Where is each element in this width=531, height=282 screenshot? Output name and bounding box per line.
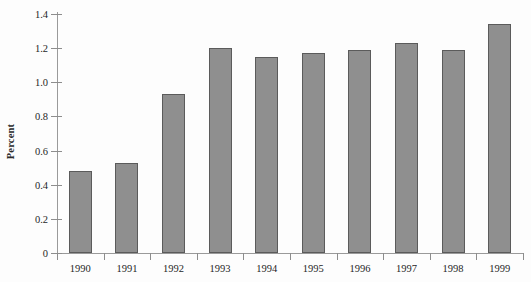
x-axis-tick — [383, 253, 384, 260]
x-axis-tick — [476, 253, 477, 260]
bar — [302, 53, 325, 253]
y-axis-tick-label: 1.4 — [2, 9, 48, 20]
y-axis-tick — [51, 14, 62, 15]
x-axis-tick — [104, 253, 105, 260]
x-axis-tick — [337, 253, 338, 260]
y-axis-tick — [51, 82, 62, 83]
x-axis-tick-label: 1994 — [256, 263, 277, 274]
x-axis-tick-label: 1996 — [349, 263, 370, 274]
y-axis-tick-label: 1.0 — [2, 77, 48, 88]
x-axis-tick-label: 1990 — [70, 263, 91, 274]
x-axis-tick-label: 1992 — [163, 263, 184, 274]
y-axis-tick — [51, 219, 62, 220]
y-axis-tick — [51, 185, 62, 186]
y-axis-title: Percent — [0, 96, 22, 186]
x-axis-tick-label: 1993 — [210, 263, 231, 274]
y-axis-tick-label: 0.8 — [2, 111, 48, 122]
x-axis-tick — [197, 253, 198, 260]
x-axis-tick — [150, 253, 151, 260]
bar — [395, 43, 418, 253]
y-axis-tick-label: 0.4 — [2, 179, 48, 190]
x-axis-tick — [290, 253, 291, 260]
y-axis-tick-label: 0.6 — [2, 145, 48, 156]
x-axis-tick — [57, 253, 58, 260]
x-axis-tick — [430, 253, 431, 260]
bar — [69, 171, 92, 253]
y-axis-tick-label: 0 — [2, 248, 48, 259]
x-axis-tick — [243, 253, 244, 260]
bar — [488, 24, 511, 253]
bar — [348, 50, 371, 253]
bar — [162, 94, 185, 253]
x-axis-tick-label: 1998 — [443, 263, 464, 274]
x-axis-tick-label: 1997 — [396, 263, 417, 274]
y-axis-tick-label: 0.2 — [2, 213, 48, 224]
y-axis-tick — [51, 116, 62, 117]
x-axis-tick-label: 1995 — [303, 263, 324, 274]
y-axis-tick-label: 1.2 — [2, 43, 48, 54]
bar-chart: Percent 00.20.40.60.81.01.21.4 199019911… — [0, 0, 531, 282]
bar — [442, 50, 465, 253]
x-axis-tick-label: 1999 — [489, 263, 510, 274]
bar — [255, 57, 278, 253]
x-axis-tick — [523, 253, 524, 260]
bar — [209, 48, 232, 253]
y-axis-tick — [51, 151, 62, 152]
y-axis-tick — [51, 48, 62, 49]
x-axis-tick-label: 1991 — [116, 263, 137, 274]
bar — [115, 163, 138, 253]
